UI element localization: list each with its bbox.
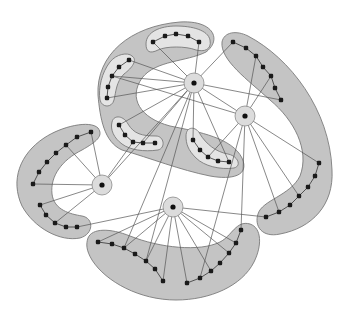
graph-node — [185, 281, 189, 285]
graph-node — [261, 65, 265, 69]
graph-node — [151, 40, 155, 44]
graph-node — [227, 160, 231, 164]
graph-node — [218, 261, 222, 265]
graph-node — [244, 46, 248, 50]
graph-node — [89, 130, 93, 134]
hub-node — [99, 182, 104, 187]
graph-node — [317, 161, 321, 165]
edge — [77, 207, 173, 227]
hub-A — [184, 73, 204, 93]
graph-node — [198, 148, 202, 152]
graph-node — [110, 74, 114, 78]
cluster-region-right-arc — [222, 33, 332, 235]
edge — [98, 207, 173, 242]
graph-node — [44, 213, 48, 217]
graph-node — [198, 276, 202, 280]
hub-D — [163, 197, 183, 217]
hub-B — [235, 106, 255, 126]
graph-node — [64, 143, 68, 147]
graph-node — [153, 267, 157, 271]
cluster-region-left-arc — [17, 124, 100, 238]
graph-node — [96, 240, 100, 244]
graph-node — [54, 151, 58, 155]
edge — [173, 207, 236, 243]
graph-node — [117, 123, 121, 127]
hub-node — [170, 204, 175, 209]
graph-node — [216, 159, 220, 163]
graph-node — [144, 259, 148, 263]
graph-node — [231, 40, 235, 44]
graph-node — [133, 252, 137, 256]
graph-node — [37, 170, 41, 174]
hub-node — [191, 80, 196, 85]
graph-node — [131, 140, 135, 144]
graph-node — [31, 182, 35, 186]
hub-node — [242, 113, 247, 118]
graph-node — [209, 269, 213, 273]
graph-node — [117, 65, 121, 69]
graph-node — [254, 54, 258, 58]
hub-C — [92, 175, 112, 195]
graph-node — [127, 58, 131, 62]
graph-node — [75, 135, 79, 139]
edge — [245, 116, 279, 212]
edge — [241, 116, 245, 230]
graph-node — [239, 228, 243, 232]
graph-node — [313, 174, 317, 178]
graph-node — [306, 185, 310, 189]
graph-node — [38, 203, 42, 207]
graph-node — [105, 96, 109, 100]
graph-node — [163, 34, 167, 38]
graph-node — [197, 40, 201, 44]
graph-node — [161, 279, 165, 283]
graph-node — [64, 225, 68, 229]
graph-node — [191, 138, 195, 142]
graph-node — [206, 155, 210, 159]
graph-node — [234, 241, 238, 245]
graph-node — [279, 98, 283, 102]
graph-node — [75, 225, 79, 229]
graph-node — [297, 194, 301, 198]
graph-node — [273, 86, 277, 90]
graph-node — [110, 242, 114, 246]
graph-node — [122, 246, 126, 250]
graph-node — [264, 215, 268, 219]
graph-node — [153, 141, 157, 145]
graph-node — [269, 74, 273, 78]
graph-node — [141, 141, 145, 145]
graph-node — [53, 221, 57, 225]
clustered-graph-diagram — [0, 0, 352, 310]
graph-node — [106, 85, 110, 89]
graph-node — [45, 160, 49, 164]
graph-node — [288, 203, 292, 207]
graph-node — [123, 133, 127, 137]
graph-node — [277, 210, 281, 214]
edge — [173, 207, 229, 253]
graph-node — [227, 251, 231, 255]
graph-node — [174, 32, 178, 36]
graph-node — [186, 34, 190, 38]
edge — [245, 116, 299, 196]
